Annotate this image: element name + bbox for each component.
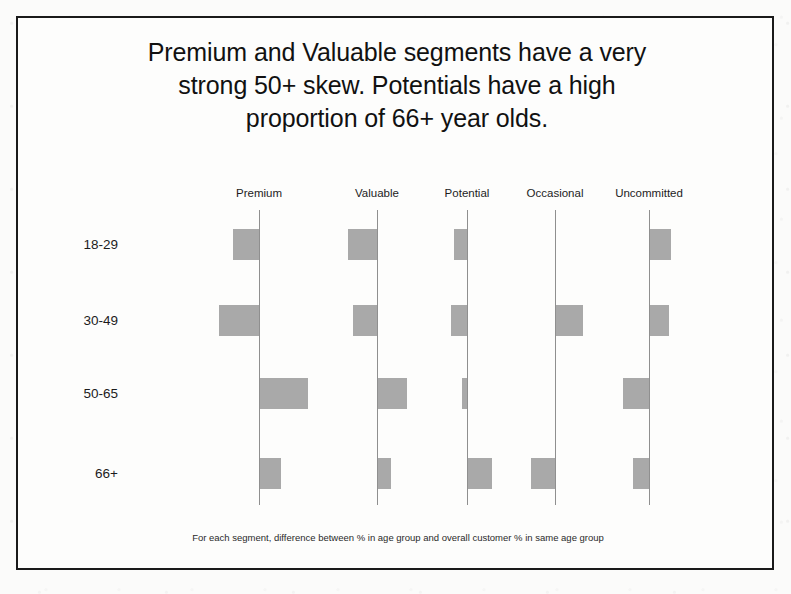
bar-occasional-30-49 xyxy=(556,305,583,336)
bar-occasional-66- xyxy=(531,458,555,489)
slide-frame: Premium and Valuable segments have a ver… xyxy=(16,16,774,570)
bar-uncommitted-50-65 xyxy=(623,378,650,409)
bar-valuable-18-29 xyxy=(348,229,377,260)
column-header-valuable: Valuable xyxy=(355,187,399,199)
bar-potential-18-29 xyxy=(454,229,467,260)
bar-potential-30-49 xyxy=(451,305,467,336)
column-header-premium: Premium xyxy=(236,187,282,199)
axis-line-occasional xyxy=(555,210,556,505)
slide-canvas: Premium and Valuable segments have a ver… xyxy=(0,0,791,594)
row-label-30-49: 30-49 xyxy=(38,313,118,328)
column-header-uncommitted: Uncommitted xyxy=(615,187,683,199)
bar-uncommitted-66- xyxy=(633,458,649,489)
bar-potential-66- xyxy=(468,458,492,489)
column-header-occasional: Occasional xyxy=(527,187,584,199)
bar-uncommitted-30-49 xyxy=(650,305,669,336)
bar-uncommitted-18-29 xyxy=(650,229,671,260)
bar-potential-50-65 xyxy=(462,378,467,409)
bar-valuable-30-49 xyxy=(353,305,377,336)
bar-premium-30-49 xyxy=(219,305,259,336)
column-header-potential: Potential xyxy=(445,187,490,199)
segment-age-skew-chart: Premium Valuable Potential Occasional Un… xyxy=(18,18,772,568)
bar-premium-18-29 xyxy=(233,229,260,260)
row-label-18-29: 18-29 xyxy=(38,237,118,252)
bar-premium-50-65 xyxy=(260,378,308,409)
bar-valuable-50-65 xyxy=(378,378,407,409)
bar-valuable-66- xyxy=(378,458,391,489)
row-label-50-65: 50-65 xyxy=(38,386,118,401)
row-label-66-plus: 66+ xyxy=(38,466,118,481)
bar-premium-66- xyxy=(260,458,281,489)
chart-footnote: For each segment, difference between % i… xyxy=(78,532,718,543)
